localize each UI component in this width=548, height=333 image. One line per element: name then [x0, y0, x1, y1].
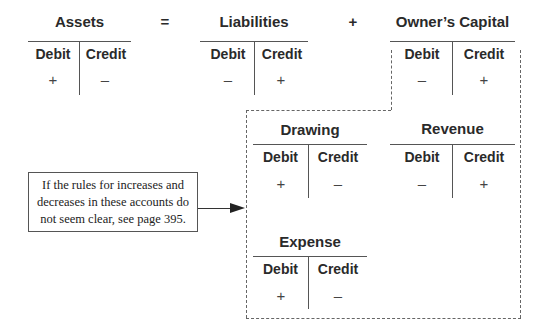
dashed-capital-left-edge [391, 50, 392, 110]
drawing-top-rule [253, 144, 367, 145]
revenue-debit-header: Debit [392, 149, 452, 165]
note-line-1: If the rules for increases and [29, 177, 197, 194]
expense-debit-header: Debit [253, 261, 308, 277]
dashed-left-edge [246, 110, 247, 318]
drawing-debit-sign: + [268, 175, 294, 192]
note-line-3: not seem clear, see page 395. [29, 211, 197, 228]
liabilities-credit-sign: + [268, 71, 294, 88]
liabilities-debit-header: Debit [202, 46, 254, 62]
expense-debit-sign: + [268, 287, 294, 304]
owners-capital-debit-sign: – [409, 71, 435, 88]
assets-credit-header: Credit [80, 46, 132, 62]
assets-debit-header: Debit [28, 46, 78, 62]
dashed-bottom-edge [246, 318, 521, 319]
expense-credit-header: Credit [309, 261, 367, 277]
plus-sign: + [343, 13, 363, 30]
assets-title: Assets [28, 13, 131, 30]
drawing-debit-header: Debit [253, 149, 308, 165]
note-line-2: decreases in these accounts do [29, 194, 197, 211]
expense-top-rule [253, 256, 367, 257]
owners-capital-credit-sign: + [471, 71, 497, 88]
dashed-right-edge [520, 50, 521, 318]
arrow-right-icon [230, 203, 245, 213]
assets-credit-sign: – [92, 71, 118, 88]
dashed-inner-top-edge [246, 110, 391, 111]
liabilities-title: Liabilities [200, 13, 308, 30]
drawing-credit-header: Credit [309, 149, 367, 165]
owners-capital-title: Owner’s Capital [385, 13, 520, 30]
revenue-title: Revenue [390, 120, 515, 137]
liabilities-debit-sign: – [215, 71, 241, 88]
revenue-credit-header: Credit [453, 149, 515, 165]
drawing-title: Drawing [253, 121, 367, 138]
equals-sign: = [155, 13, 175, 30]
revenue-credit-sign: + [471, 175, 497, 192]
owners-capital-debit-header: Debit [392, 46, 452, 62]
note-box: If the rules for increases and decreases… [28, 172, 198, 232]
owners-capital-credit-header: Credit [453, 46, 515, 62]
expense-title: Expense [253, 233, 367, 250]
expense-credit-sign: – [325, 287, 351, 304]
liabilities-credit-header: Credit [255, 46, 309, 62]
revenue-debit-sign: – [409, 175, 435, 192]
assets-debit-sign: + [40, 71, 66, 88]
arrow-shaft [198, 208, 232, 209]
drawing-credit-sign: – [325, 175, 351, 192]
